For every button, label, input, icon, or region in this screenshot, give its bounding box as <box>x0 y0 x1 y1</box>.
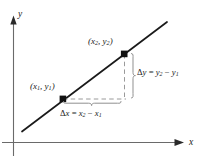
diagram-canvas <box>0 0 201 160</box>
y-axis-label: y <box>18 10 22 20</box>
delta-y-equals: = <box>146 67 155 77</box>
x-axis <box>2 139 184 146</box>
delta-y-minus: − <box>163 67 172 77</box>
y-axis <box>10 16 16 157</box>
point-1-close: ) <box>52 81 55 91</box>
delta-x-label: Δx = x2 − x1 <box>60 109 102 119</box>
x-axis-label: x <box>189 138 193 148</box>
point-1-label: (x1, y1) <box>30 82 55 91</box>
point-1-open: (x <box>30 81 37 91</box>
delta-x-brace <box>64 102 122 106</box>
point-2-open: (x <box>88 36 95 46</box>
point-2-mid: , y <box>98 36 107 46</box>
delta-x-term2-sub: 1 <box>99 112 102 118</box>
slope-diagram: y x (x1, y1) (x2, y2) Δy = y2 − y1 Δx = … <box>0 0 201 160</box>
point-1-mid: , y <box>40 81 49 91</box>
delta-y-brace <box>132 54 136 99</box>
point-1-marker <box>60 96 67 103</box>
delta-y-term2-sub: 1 <box>176 71 179 77</box>
y-axis-arrowhead <box>10 16 16 25</box>
delta-x-minus: − <box>86 108 95 118</box>
x-axis-arrowhead <box>175 139 185 146</box>
point-2-close: ) <box>110 36 113 46</box>
delta-y-label: Δy = y2 − y1 <box>137 68 179 78</box>
point-2-marker <box>121 51 128 58</box>
delta-x-equals: = <box>69 108 78 118</box>
point-2-label: (x2, y2) <box>88 37 113 46</box>
